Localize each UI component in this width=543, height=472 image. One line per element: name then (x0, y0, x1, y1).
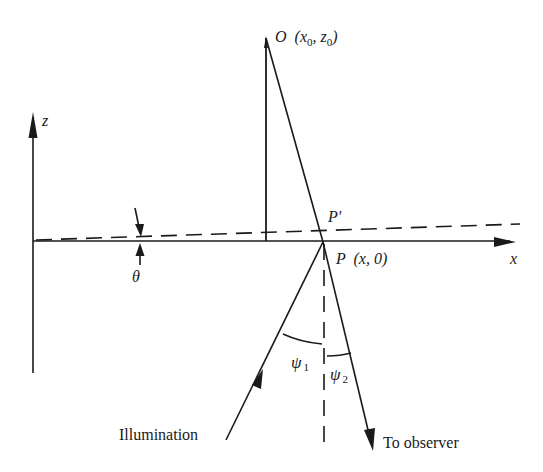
z-axis-arrow-icon (29, 112, 38, 138)
reflection-diagram: z x θ O (x0, z0) P′ P (x, 0) ψ1 (0, 0, 543, 472)
psi1-label: ψ1 (291, 353, 309, 373)
psi1-arc (283, 334, 322, 344)
illumination-arrow-icon (252, 369, 263, 389)
theta-arrow-up-icon (136, 243, 145, 256)
object-to-p-line (266, 38, 323, 242)
point-p-label: P (x, 0) (335, 250, 387, 268)
tilted-surface-dashed-line (36, 224, 520, 240)
z-axis-label: z (41, 112, 49, 129)
object-point-label: O (x0, z0) (275, 28, 338, 48)
theta-arrow-down-icon (135, 224, 144, 237)
illumination-label: Illumination (119, 426, 198, 443)
observer-arrow-icon (364, 428, 375, 451)
x-axis-label: x (509, 250, 517, 267)
illumination-ray (226, 242, 323, 440)
z-axis (29, 112, 38, 373)
observer-ray (323, 242, 369, 434)
psi2-label: ψ2 (330, 365, 348, 385)
x-axis (33, 237, 516, 247)
to-observer-label: To observer (383, 434, 459, 451)
psi2-arc (327, 353, 351, 356)
x-axis-arrow-icon (494, 237, 516, 247)
theta-label: θ (132, 268, 140, 285)
p-prime-label: P′ (327, 208, 342, 225)
